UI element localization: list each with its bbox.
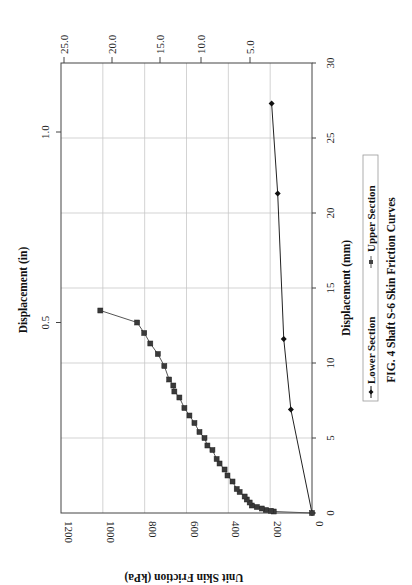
lower-section-marker bbox=[281, 336, 287, 342]
upper-section-marker bbox=[242, 494, 247, 499]
upper-section-marker bbox=[202, 436, 207, 441]
y-axis-title: Unit Skin Friction (kPa) bbox=[124, 571, 243, 584]
upper-section-marker bbox=[197, 430, 202, 435]
in-tick-label: 0.5 bbox=[39, 315, 51, 329]
lower-section-marker bbox=[288, 407, 294, 413]
secondary-tick-label: 20.0 bbox=[106, 34, 118, 54]
upper-section-marker bbox=[268, 508, 273, 513]
upper-section-marker bbox=[98, 308, 103, 313]
data-series bbox=[98, 101, 315, 517]
x-axis-title: Displacement (mm) bbox=[340, 240, 353, 336]
y-tick-label: 200 bbox=[272, 521, 284, 538]
legend-upper-label: Upper Section bbox=[365, 185, 377, 252]
secondary-tick-label: 25.0 bbox=[58, 34, 70, 54]
upper-section-marker bbox=[135, 320, 140, 325]
upper-section-marker bbox=[225, 473, 230, 478]
legend: Lower Section Upper Section bbox=[363, 155, 378, 401]
x-tick-label: 30 bbox=[324, 57, 336, 69]
upper-section-marker bbox=[187, 413, 192, 418]
y-tick-label: 1200 bbox=[63, 521, 75, 544]
axis-ticks: 0200400600800100012000510152025300.51.05… bbox=[39, 34, 336, 543]
x-tick-label: 15 bbox=[324, 282, 336, 294]
y-tick-label: 600 bbox=[189, 521, 201, 538]
y-tick-label: 400 bbox=[230, 521, 242, 538]
upper-section-marker bbox=[254, 505, 259, 510]
upper-section-marker bbox=[310, 511, 315, 516]
upper-section-marker bbox=[230, 479, 235, 484]
upper-section-marker bbox=[222, 467, 227, 472]
in-tick-label: 1.0 bbox=[39, 125, 51, 139]
upper-section-marker bbox=[171, 383, 176, 388]
upper-section-marker bbox=[192, 421, 197, 426]
legend-lower-label: Lower Section bbox=[365, 317, 377, 384]
upper-section-marker bbox=[205, 443, 210, 448]
x-tick-label: 0 bbox=[324, 510, 336, 516]
upper-section-marker bbox=[177, 395, 182, 400]
secondary-tick-label: 5.0 bbox=[244, 40, 256, 54]
secondary-x-axis-title: Displacement (in) bbox=[17, 247, 30, 334]
figure-caption: FIG. 4 Shaft S-6 Skin Friction Curves bbox=[385, 197, 397, 383]
x-tick-label: 10 bbox=[324, 357, 336, 369]
secondary-tick-label: 15.0 bbox=[154, 34, 166, 54]
y-tick-label: 800 bbox=[147, 521, 159, 538]
lower-section-marker bbox=[275, 191, 281, 197]
skin-friction-chart: 0200400600800100012000510152025300.51.05… bbox=[0, 0, 412, 585]
secondary-tick-label: 10.0 bbox=[195, 34, 207, 54]
upper-section-marker bbox=[148, 341, 153, 346]
x-tick-label: 25 bbox=[324, 132, 336, 144]
upper-section-marker bbox=[167, 377, 172, 382]
x-tick-label: 5 bbox=[324, 435, 336, 441]
x-tick-label: 20 bbox=[324, 207, 336, 219]
grid-lines bbox=[61, 63, 312, 513]
y-tick-label: 1000 bbox=[105, 521, 117, 544]
upper-section-marker bbox=[210, 448, 215, 453]
upper-section-marker bbox=[182, 406, 187, 411]
upper-section-marker bbox=[172, 389, 177, 394]
upper-section-line bbox=[100, 311, 312, 514]
y-tick-label: 0 bbox=[314, 521, 326, 527]
lower-section-marker bbox=[269, 101, 275, 107]
lower-section-line bbox=[272, 104, 312, 514]
upper-section-marker bbox=[214, 457, 219, 462]
upper-section-marker bbox=[142, 331, 147, 336]
upper-section-marker bbox=[259, 506, 264, 511]
upper-section-marker bbox=[155, 352, 160, 357]
upper-section-marker bbox=[162, 364, 167, 369]
upper-section-marker bbox=[234, 487, 239, 492]
